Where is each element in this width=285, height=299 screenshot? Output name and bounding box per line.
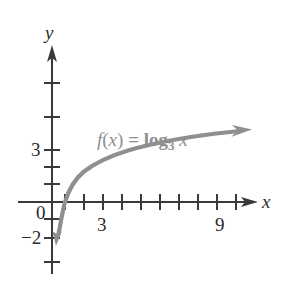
- logarithmic-function-graph: y x 0 3 −2 3 9 f(x) = log3 x: [0, 0, 285, 299]
- function-close-paren: ): [117, 129, 123, 150]
- y-tick-label-3: 3: [31, 140, 41, 159]
- y-tick-label-negative-2: −2: [21, 228, 41, 247]
- x-axis-label: x: [262, 192, 270, 211]
- x-tick-label-9: 9: [215, 215, 225, 234]
- x-tick-label-3: 3: [97, 215, 107, 234]
- function-argument: x: [179, 129, 187, 150]
- function-log-base: 3: [168, 138, 175, 153]
- function-equals-sign: =: [128, 129, 139, 150]
- y-axis-label: y: [45, 23, 53, 42]
- function-variable: x: [109, 129, 117, 150]
- function-equation-label: f(x) = log3 x: [97, 130, 188, 152]
- function-log-operator: log: [144, 129, 168, 150]
- origin-label: 0: [36, 203, 46, 222]
